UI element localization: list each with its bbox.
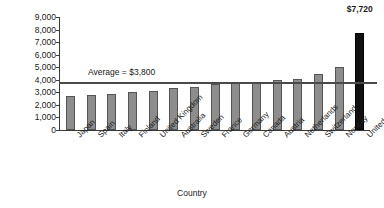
bar-slot [60,17,81,130]
x-axis-tick-label: Australia [179,133,185,139]
bar-slot [225,17,246,130]
bar-japan[interactable] [66,96,75,130]
y-axis-tick-label: 3,000 [20,88,56,97]
x-axis-tick-label: Spain [96,133,102,139]
x-axis-tick-label: Austria [282,133,288,139]
y-axis-tick-label: 1,000 [20,113,56,122]
x-axis-tick-label: Switzerland [323,133,329,139]
x-axis-tick-label: Netherlands [303,133,309,139]
y-axis-tick-label: 4,000 [20,76,56,85]
x-axis-tick-label: United Kingdom [158,133,164,139]
bar-value-label: $7,720 [347,5,373,14]
y-axis-tick-label: 8,000 [20,26,56,35]
bar-slot [287,17,308,130]
average-reference-line [59,82,377,84]
y-axis-tick-label: 6,000 [20,51,56,60]
x-axis-tick-labels: JapanSpainItalyFinlandUnited KingdomAust… [60,130,370,192]
y-axis-tick-labels: 01,0002,0003,0004,0005,0006,0007,0008,00… [20,0,56,208]
bar-slot [205,17,226,130]
x-axis-tick-label: Norway [344,133,350,139]
y-axis-tick-label: 2,000 [20,101,56,110]
y-axis-tick-label: 9,000 [20,13,56,22]
x-axis-tick-label: United States [365,133,371,139]
x-axis-tick-label: France [220,133,226,139]
bar-chart: Per capita spending ($) 01,0002,0003,000… [0,0,384,208]
y-axis-tick-label: 0 [20,126,56,135]
x-axis-tick-label: Germany [241,133,247,139]
average-reference-label: Average = $3,800 [88,68,155,77]
x-axis-tick-label: Finland [137,133,143,139]
x-axis-title: Country [0,188,384,198]
bar-slot [267,17,288,130]
x-axis-tick-label: Japan [75,133,81,139]
x-axis-tick-label: Sweden [199,133,205,139]
y-axis-tick-label: 5,000 [20,63,56,72]
x-axis-tick-label: Italy [117,133,123,139]
x-axis-tick-label: Canada [261,133,267,139]
y-axis-tick-label: 7,000 [20,38,56,47]
